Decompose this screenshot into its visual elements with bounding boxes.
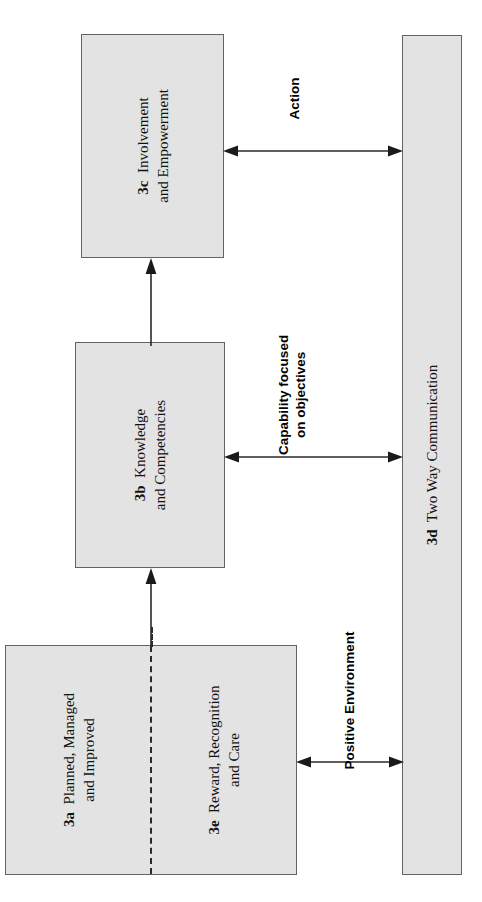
- node-text-3c-line1: Involvement: [134, 97, 150, 173]
- node-label-3c: 3c Involvement and Empowerment: [132, 89, 173, 203]
- arrow-3b-to-3c: [131, 256, 171, 346]
- node-text-3b-line2: and Competencies: [150, 400, 170, 510]
- node-text-3a-line1: Planned, Managed: [60, 693, 76, 805]
- arrow-label-action-line1: Action: [287, 77, 302, 119]
- arrow-capability-connector: [223, 446, 404, 468]
- node-text-3d-line1: Two Way Communication: [424, 365, 440, 522]
- arrow-label-capability-line1: Capability focused: [276, 335, 291, 455]
- node-text-3e-line2: and Care: [224, 685, 244, 834]
- node-box-3a-planned-managed-and-improved[interactable]: 3a Planned, Managed and Improved: [6, 646, 151, 874]
- dashed-divider-3a-3e: [150, 646, 152, 874]
- arrow-label-positive-environment: Positive Environment: [342, 605, 359, 795]
- node-code-3e: 3e: [205, 820, 221, 834]
- node-text-3c-line2: and Empowerment: [153, 89, 173, 203]
- node-text-3a-line2: and Improved: [79, 693, 99, 827]
- arrow-label-positive-line1: Positive Environment: [342, 631, 357, 769]
- node-label-3e: 3e Reward, Recognition and Care: [203, 685, 244, 834]
- node-bar-3d-two-way-communication[interactable]: 3d Two Way Communication: [402, 35, 462, 875]
- node-box-3b-knowledge-and-competencies[interactable]: 3b Knowledge and Competencies: [75, 342, 225, 568]
- arrow-label-capability-line2: on objectives: [293, 315, 310, 475]
- node-text-3e-line1: Reward, Recognition: [205, 685, 221, 812]
- node-label-3a: 3a Planned, Managed and Improved: [58, 693, 99, 827]
- node-box-3e-reward-recognition-and-care[interactable]: 3e Reward, Recognition and Care: [151, 646, 296, 874]
- node-label-3b: 3b Knowledge and Competencies: [130, 400, 171, 510]
- node-box-3c-involvement-and-empowerment[interactable]: 3c Involvement and Empowerment: [81, 34, 224, 258]
- arrow-label-capability: Capability focused on objectives: [276, 315, 310, 475]
- node-code-3a: 3a: [60, 812, 76, 827]
- diagram-canvas: 3c Involvement and Empowerment 3b Knowle…: [0, 0, 482, 902]
- arrow-label-action: Action: [287, 38, 304, 158]
- node-box-3a-3e-container[interactable]: 3a Planned, Managed and Improved 3e Rewa…: [5, 645, 297, 875]
- arrow-action-connector: [222, 140, 404, 162]
- node-text-3b-line1: Knowledge: [132, 409, 148, 478]
- node-label-3d: 3d Two Way Communication: [422, 365, 442, 546]
- arrow-3ae-to-3b: [131, 566, 171, 648]
- node-code-3d: 3d: [424, 529, 440, 545]
- node-code-3c: 3c: [134, 181, 150, 195]
- node-code-3b: 3b: [132, 485, 148, 501]
